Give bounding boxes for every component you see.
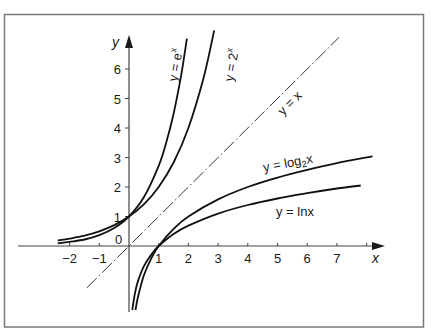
y-tick-label: 5 bbox=[114, 92, 121, 107]
x-tick-label: 7 bbox=[333, 251, 340, 266]
x-tick-label: 2 bbox=[185, 251, 192, 266]
y-axis-label: y bbox=[111, 34, 120, 50]
y-tick-label: 2 bbox=[114, 180, 121, 195]
chart-frame bbox=[5, 15, 424, 328]
label-ln-x: y = lnx bbox=[276, 204, 314, 219]
origin-label: 0 bbox=[115, 232, 122, 247]
y-tick-label: 4 bbox=[114, 121, 121, 136]
y-tick-label: 6 bbox=[114, 62, 121, 77]
x-tick-label: 5 bbox=[274, 251, 281, 266]
x-tick-label: 1 bbox=[155, 251, 162, 266]
function-graph: −2−11234567 123456 x y 0 y = ex y = 2x y… bbox=[0, 0, 432, 336]
x-tick-label: −1 bbox=[92, 251, 107, 266]
x-tick-label: −2 bbox=[62, 251, 77, 266]
x-axis-label: x bbox=[371, 250, 380, 266]
x-tick-label: 6 bbox=[304, 251, 311, 266]
y-tick-label: 3 bbox=[114, 151, 121, 166]
x-tick-label: 4 bbox=[244, 251, 251, 266]
x-tick-label: 3 bbox=[214, 251, 221, 266]
